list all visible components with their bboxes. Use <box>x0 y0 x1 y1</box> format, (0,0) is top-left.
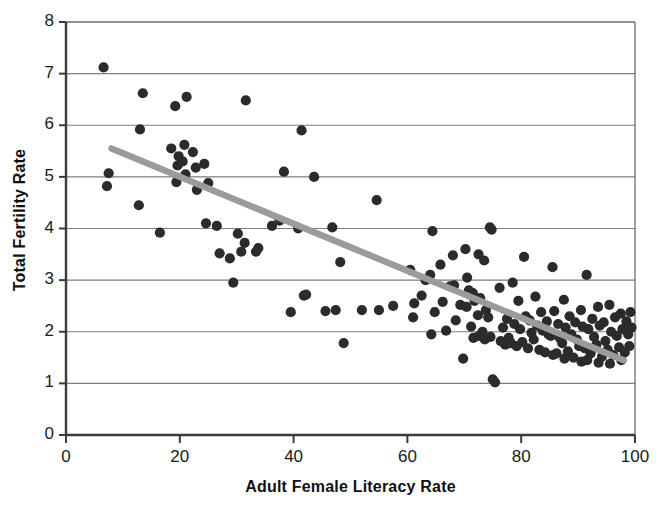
data-point <box>327 222 337 232</box>
data-point <box>582 270 592 280</box>
data-point <box>301 289 311 299</box>
data-point <box>549 306 559 316</box>
data-point <box>408 312 418 322</box>
scatter-plot-figure: Total Fertility Rate Adult Female Litera… <box>0 0 662 516</box>
data-point <box>409 298 419 308</box>
data-point <box>241 95 251 105</box>
data-point <box>170 101 180 111</box>
data-point <box>435 260 445 270</box>
data-point <box>530 292 540 302</box>
data-point <box>490 377 500 387</box>
data-point <box>529 334 539 344</box>
data-point <box>427 226 437 236</box>
y-tick-label: 2 <box>28 321 54 341</box>
data-point <box>624 341 634 351</box>
x-tick-label: 60 <box>387 447 427 467</box>
data-point <box>625 307 635 317</box>
data-point <box>240 238 250 248</box>
data-point <box>188 147 198 157</box>
data-point <box>233 229 243 239</box>
data-point <box>438 297 448 307</box>
data-point <box>134 200 144 210</box>
data-point <box>228 278 238 288</box>
data-point <box>599 317 609 327</box>
data-point <box>593 302 603 312</box>
data-point <box>98 62 108 72</box>
y-tick-label: 1 <box>28 372 54 392</box>
data-point <box>339 338 349 348</box>
data-point <box>519 252 529 262</box>
data-point <box>201 218 211 228</box>
data-point <box>182 92 192 102</box>
x-axis-title-container: Adult Female Literacy Rate <box>66 478 635 496</box>
data-point <box>479 255 489 265</box>
data-point <box>199 159 209 169</box>
data-point <box>215 248 225 258</box>
y-tick-label: 8 <box>28 11 54 31</box>
data-point <box>441 326 451 336</box>
data-point <box>513 296 523 306</box>
data-point <box>212 221 222 231</box>
data-point <box>498 323 508 333</box>
data-point <box>536 307 546 317</box>
data-point <box>104 168 114 178</box>
x-tick-label: 40 <box>274 447 314 467</box>
x-tick-label: 100 <box>615 447 655 467</box>
data-point <box>547 262 557 272</box>
data-point <box>135 124 145 134</box>
data-point <box>576 305 586 315</box>
y-tick-label: 0 <box>28 424 54 444</box>
x-tick-label: 80 <box>501 447 541 467</box>
data-point <box>178 156 188 166</box>
data-point <box>604 300 614 310</box>
data-point <box>102 181 112 191</box>
data-point <box>357 305 367 315</box>
data-point <box>236 247 246 257</box>
data-point <box>296 125 306 135</box>
x-axis-title: Adult Female Literacy Rate <box>245 478 456 495</box>
data-point <box>460 244 470 254</box>
data-point <box>494 283 504 293</box>
data-point <box>458 353 468 363</box>
data-point <box>374 305 384 315</box>
data-point <box>426 329 436 339</box>
data-point <box>451 315 461 325</box>
data-point <box>417 291 427 301</box>
data-point <box>166 143 176 153</box>
data-point <box>508 278 518 288</box>
data-point <box>626 323 636 333</box>
y-tick-label: 7 <box>28 63 54 83</box>
data-point <box>335 257 345 267</box>
data-point <box>600 336 610 346</box>
y-tick-label: 3 <box>28 269 54 289</box>
data-point <box>331 305 341 315</box>
data-point <box>372 195 382 205</box>
x-tick-label: 0 <box>46 447 86 467</box>
data-point <box>559 295 569 305</box>
data-point <box>155 228 165 238</box>
data-point <box>309 172 319 182</box>
data-point <box>253 243 263 253</box>
data-point <box>286 307 296 317</box>
data-points-group <box>98 62 636 387</box>
plot-canvas <box>0 0 662 516</box>
data-point <box>430 307 440 317</box>
data-point <box>225 253 235 263</box>
data-point <box>466 321 476 331</box>
data-point <box>448 250 458 260</box>
data-point <box>605 359 615 369</box>
data-point <box>462 272 472 282</box>
data-point <box>388 301 398 311</box>
data-point <box>487 224 497 234</box>
y-tick-label: 6 <box>28 114 54 134</box>
x-tick-label: 20 <box>160 447 200 467</box>
data-point <box>179 140 189 150</box>
y-tick-label: 4 <box>28 218 54 238</box>
data-point <box>461 302 471 312</box>
trend-line <box>112 148 624 360</box>
data-point <box>523 343 533 353</box>
y-axis-title: Total Fertility Rate <box>11 149 29 291</box>
data-point <box>320 306 330 316</box>
data-point <box>279 167 289 177</box>
data-point <box>138 88 148 98</box>
